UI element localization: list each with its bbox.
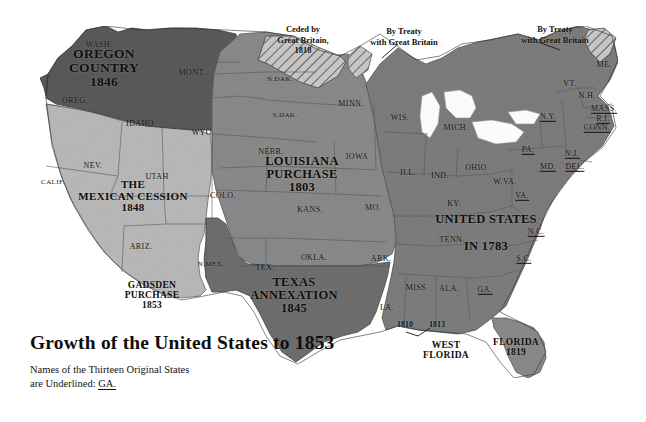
state-abbreviation: IDAHO xyxy=(126,119,154,128)
state-abbreviation: TENN. xyxy=(439,235,464,244)
state-label-kans: KANS. xyxy=(297,206,323,214)
texas-annexation-year: 1845 xyxy=(250,303,338,316)
treaty-maine-line1: By Treaty xyxy=(537,24,573,34)
louisiana-purchase-line1: LOUISIANA xyxy=(265,154,339,168)
state-abbreviation: MINN. xyxy=(338,99,363,108)
state-abbreviation: ILL. xyxy=(400,168,416,177)
annotation-ceded-by-great-britain: Ceded by Great Britain, 1818 xyxy=(277,24,328,56)
legend-example-state: GA. xyxy=(98,378,116,390)
state-label-va: VA. xyxy=(515,192,529,200)
ceded-year: 1818 xyxy=(277,45,328,56)
territory-label-mexican-cession: THE MEXICAN CESSION 1848 xyxy=(78,179,187,214)
state-abbreviation: UTAH xyxy=(145,172,168,181)
legend-line2-prefix: are Underlined: xyxy=(30,378,96,389)
gadsden-purchase-year: 1853 xyxy=(125,301,180,311)
state-label-mont: MONT. xyxy=(179,69,206,77)
treaty-north-line2: with Great Britain xyxy=(370,37,437,47)
state-abbreviation: MICH. xyxy=(444,123,469,132)
state-abbreviation: N.MEX. xyxy=(198,260,225,268)
state-label-me: ME. xyxy=(596,61,611,69)
state-label-mich: MICH. xyxy=(444,124,469,132)
state-abbreviation: S.C. xyxy=(516,254,531,264)
territory-label-oregon-country: OREGON COUNTRY 1846 xyxy=(69,47,139,90)
gadsden-purchase-line1: GADSDEN xyxy=(128,280,177,290)
state-abbreviation: N.J. xyxy=(565,149,580,159)
state-label-conn: CONN. xyxy=(584,124,611,132)
state-abbreviation: N.H. xyxy=(578,91,595,100)
state-label-utah: UTAH xyxy=(145,173,168,181)
state-abbreviation: W.VA. xyxy=(493,177,516,186)
state-label-md: MD. xyxy=(540,163,556,171)
state-label-calif: CALIF. xyxy=(41,179,65,186)
state-label-mo: MO. xyxy=(365,204,381,212)
state-abbreviation: MD. xyxy=(540,162,556,172)
state-label-mass: MASS. xyxy=(591,105,617,113)
state-abbreviation: WYO. xyxy=(192,128,215,137)
state-abbreviation: OKLA. xyxy=(301,253,327,262)
state-label-nj: N.J. xyxy=(565,150,580,158)
state-abbreviation: COLO. xyxy=(210,191,236,200)
state-label-ga: GA. xyxy=(478,286,493,294)
caption-block: Growth of the United States to 1853 Name… xyxy=(30,332,335,391)
annotation-by-treaty-north: By Treaty with Great Britain xyxy=(370,26,437,47)
state-abbreviation: GA. xyxy=(478,285,493,295)
state-abbreviation: IND. xyxy=(431,171,449,180)
state-abbreviation: OHIO xyxy=(465,163,487,172)
gulf-date-1810: 1810 xyxy=(397,321,413,329)
state-label-tex: TEX. xyxy=(255,264,274,272)
state-abbreviation: MISS. xyxy=(406,283,429,292)
state-abbreviation: CONN. xyxy=(584,123,611,133)
state-label-ala: ALA. xyxy=(439,285,459,293)
state-label-ill: ILL. xyxy=(400,169,416,177)
state-label-la: LA. xyxy=(380,304,394,312)
state-abbreviation: MO. xyxy=(365,203,381,212)
state-abbreviation: NEBR. xyxy=(258,147,283,156)
state-label-oreg: OREG. xyxy=(62,97,88,105)
state-abbreviation: N.Y. xyxy=(540,112,556,122)
florida-year: 1819 xyxy=(493,348,539,358)
state-label-iowa: IOWA xyxy=(346,153,368,161)
oregon-country-line2: COUNTRY xyxy=(69,61,139,75)
state-abbreviation: OREG. xyxy=(62,96,88,105)
mexican-cession-year: 1848 xyxy=(78,202,187,214)
state-label-nmex: N.MEX. xyxy=(198,261,225,268)
state-label-colo: COLO. xyxy=(210,192,236,200)
state-abbreviation: DEL. xyxy=(565,162,584,172)
state-label-ndak: N.DAK. xyxy=(267,76,293,83)
state-abbreviation: TEX. xyxy=(255,263,274,272)
map-legend-note: Names of the Thirteen Original States ar… xyxy=(30,363,335,391)
growth-of-united-states-map: OREGON COUNTRY 1846 THE MEXICAN CESSION … xyxy=(0,0,646,422)
state-label-ohio: OHIO xyxy=(465,164,487,172)
state-abbreviation: N.DAK. xyxy=(267,75,293,83)
state-abbreviation: VA. xyxy=(515,191,529,201)
state-label-wyo: WYO. xyxy=(192,129,215,137)
state-label-minn: MINN. xyxy=(338,100,363,108)
texas-annexation-line1: TEXAS xyxy=(272,275,315,289)
state-abbreviation: LA. xyxy=(380,303,394,312)
state-label-del: DEL. xyxy=(565,163,584,171)
state-label-sdak: S.DAK. xyxy=(273,112,298,119)
state-abbreviation: WASH. xyxy=(86,40,113,49)
annotation-by-treaty-maine: By Treaty with Great Britain xyxy=(521,24,588,45)
state-label-wash: WASH. xyxy=(86,41,113,49)
state-label-ind: IND. xyxy=(431,172,449,180)
state-label-ariz: ARIZ. xyxy=(130,243,153,251)
state-abbreviation: ME. xyxy=(596,60,611,69)
state-label-nev: NEV. xyxy=(83,162,102,170)
state-label-okla: OKLA. xyxy=(301,254,327,262)
state-abbreviation: NEV. xyxy=(83,161,102,170)
state-abbreviation: KY. xyxy=(447,199,461,208)
state-label-tenn: TENN. xyxy=(439,236,464,244)
state-abbreviation: VT. xyxy=(563,79,576,88)
state-label-idaho: IDAHO xyxy=(126,120,154,128)
territory-label-louisiana-purchase: LOUISIANA PURCHASE 1803 xyxy=(265,155,339,194)
state-label-ark: ARK. xyxy=(371,255,392,263)
territory-label-gadsden-purchase: GADSDEN PURCHASE 1853 xyxy=(125,281,180,311)
treaty-north-line1: By Treaty xyxy=(386,26,422,36)
state-abbreviation: PA. xyxy=(522,145,535,155)
state-label-pa: PA. xyxy=(522,146,535,154)
gulf-date-1813: 1813 xyxy=(429,321,445,329)
ceded-line1: Ceded by xyxy=(286,24,320,34)
state-label-nc: N.C. xyxy=(528,228,545,236)
united-states-1783-line1: UNITED STATES xyxy=(435,212,537,226)
